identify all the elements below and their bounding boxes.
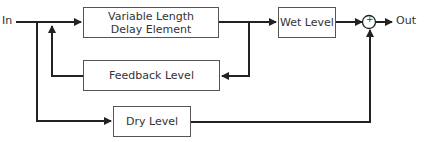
wet-level-block: Wet Level [278,7,336,38]
input-label: In [2,14,12,27]
summer-symbol: + [366,14,374,24]
delay-element-label: Variable Length Delay Element [96,10,206,36]
feedback-level-block: Feedback Level [83,60,220,91]
dry-level-label: Dry Level [126,115,178,128]
feedback-level-label: Feedback Level [109,69,194,82]
output-label: Out [396,14,416,27]
wet-level-label: Wet Level [280,16,334,29]
dry-level-block: Dry Level [113,106,191,137]
delay-element-block: Variable Length Delay Element [83,7,219,38]
